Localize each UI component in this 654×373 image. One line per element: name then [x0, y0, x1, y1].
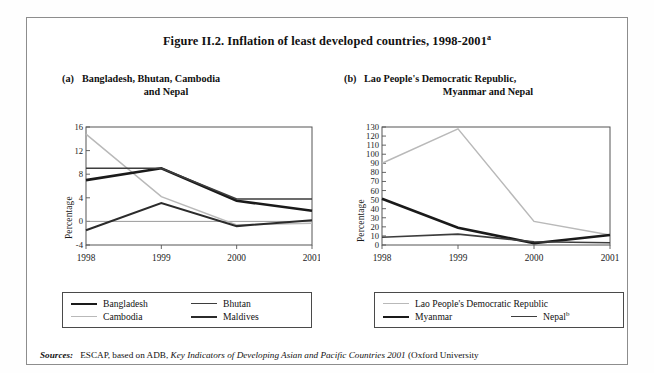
svg-text:16: 16 [74, 122, 83, 132]
svg-text:60: 60 [370, 186, 379, 196]
svg-text:2001: 2001 [601, 253, 620, 263]
svg-text:100: 100 [366, 149, 379, 159]
svg-text:1999: 1999 [152, 253, 171, 263]
figure-title-text: Figure II.2. Inflation of least develope… [163, 34, 487, 48]
legend-label-lao-people-s-democratic-republic: Lao People's Democratic Republic [415, 298, 548, 309]
svg-text:1999: 1999 [449, 253, 468, 263]
chart-b-plot: 0102030405060708090100110120130199819992… [352, 122, 624, 270]
panel-b-caption-line1: Lao People's Democratic Republic, [364, 73, 516, 84]
panel-b-caption-line2: Myanmar and Nepal [344, 85, 614, 98]
legend-swatch-lao-people-s-democratic-republic [383, 303, 409, 304]
legend-label-bangladesh: Bangladesh [103, 298, 148, 309]
svg-text:2000: 2000 [525, 253, 544, 263]
source-label: Sources: [40, 350, 73, 360]
svg-text:12: 12 [74, 146, 83, 156]
legend-item-bhutan: Bhutan [191, 298, 251, 309]
svg-text:0: 0 [375, 240, 379, 250]
legend-label-maldives: Maldives [223, 311, 259, 322]
svg-text:1998: 1998 [373, 253, 392, 263]
legend-swatch-maldives [191, 316, 217, 318]
svg-text:8: 8 [79, 169, 83, 179]
panel-a-caption-line1: Bangladesh, Bhutan, Cambodia [82, 73, 220, 84]
svg-text:110: 110 [366, 140, 379, 150]
legend-swatch-myanmar [383, 316, 409, 318]
svg-text:40: 40 [370, 204, 379, 214]
legend-swatch-nepal [511, 316, 537, 317]
chart-a-plot: -404812161998199920002001 [58, 122, 320, 270]
panel-a-caption-line2: and Nepal [62, 85, 312, 98]
figure-title-superscript: a [487, 33, 491, 42]
legend-row: BangladeshBhutan [71, 297, 303, 310]
legend-row: Lao People's Democratic Republic [383, 297, 615, 310]
source-publication-title: Key Indicators of Developing Asian and P… [171, 350, 406, 360]
chart-panel-a: Percentage -404812161998199920002001 [58, 122, 320, 270]
legend-item-cambodia: Cambodia [71, 311, 191, 322]
svg-text:80: 80 [370, 167, 379, 177]
panel-a-caption: (a)Bangladesh, Bhutan, Cambodia and Nepa… [62, 72, 312, 98]
legend-item-nepal: Nepalb [511, 310, 569, 322]
legend-item-lao-people-s-democratic-republic: Lao People's Democratic Republic [383, 298, 548, 309]
legend-swatch-cambodia [71, 316, 97, 317]
panel-a-tag: (a) [62, 72, 82, 85]
figure-page: Figure II.2. Inflation of least develope… [0, 0, 654, 373]
svg-text:70: 70 [370, 176, 379, 186]
legend-swatch-bhutan [191, 303, 217, 304]
svg-text:120: 120 [366, 131, 379, 141]
svg-text:-4: -4 [76, 240, 84, 250]
svg-text:50: 50 [370, 195, 379, 205]
svg-text:10: 10 [370, 231, 379, 241]
svg-text:0: 0 [79, 216, 83, 226]
legend-label-bhutan: Bhutan [223, 298, 251, 309]
source-text-after: (Oxford University [408, 350, 479, 360]
figure-title: Figure II.2. Inflation of least develope… [26, 33, 628, 49]
legend-swatch-bangladesh [71, 303, 97, 305]
svg-text:2001: 2001 [303, 253, 320, 263]
panel-b-tag: (b) [344, 72, 364, 85]
legend-label-nepal: Nepalb [543, 310, 569, 322]
svg-text:4: 4 [79, 193, 84, 203]
panel-b-caption: (b)Lao People's Democratic Republic, Mya… [344, 72, 614, 98]
svg-text:1998: 1998 [77, 253, 96, 263]
legend-row: CambodiaMaldives [71, 310, 303, 323]
legend-item-maldives: Maldives [191, 311, 259, 322]
legend-item-bangladesh: Bangladesh [71, 298, 191, 309]
source-note: Sources:ESCAP, based on ADB, Key Indicat… [40, 349, 618, 361]
svg-text:90: 90 [370, 158, 379, 168]
svg-text:30: 30 [370, 213, 379, 223]
source-text-before: ESCAP, based on ADB, [80, 350, 168, 360]
chart-b-legend: Lao People's Democratic RepublicMyanmarN… [374, 292, 624, 328]
legend-row: MyanmarNepalb [383, 310, 615, 323]
legend-label-myanmar: Myanmar [415, 311, 452, 322]
chart-a-legend: BangladeshBhutanCambodiaMaldives [62, 292, 312, 328]
svg-text:130: 130 [366, 122, 379, 132]
svg-text:2000: 2000 [227, 253, 246, 263]
chart-panel-b: Percentage 01020304050607080901001101201… [352, 122, 624, 270]
legend-item-myanmar: Myanmar [383, 311, 511, 322]
svg-text:20: 20 [370, 222, 379, 232]
legend-label-cambodia: Cambodia [103, 311, 142, 322]
